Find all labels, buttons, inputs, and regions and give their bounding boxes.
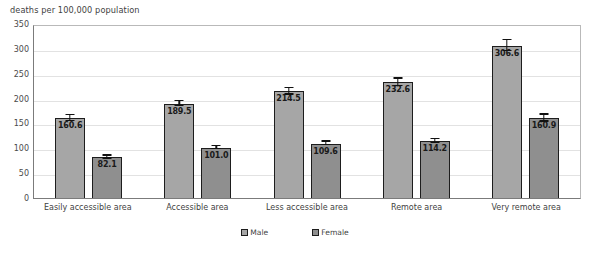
bar-holder: 214.5 [274, 26, 304, 198]
bar-female[interactable]: 109.6 [311, 144, 341, 198]
bar-holder: 306.6 [492, 26, 522, 198]
bar-female[interactable]: 160.9 [529, 118, 559, 198]
error-bar-cap-top [175, 100, 184, 101]
error-bar-cap-top [430, 138, 439, 139]
bar-male[interactable]: 160.6 [55, 118, 85, 198]
bar-value-label: 101.0 [204, 151, 228, 160]
error-bar-cap-top [284, 87, 293, 88]
error-bar-cap-top [212, 145, 221, 146]
error-bar-cap-bottom [212, 148, 221, 149]
bar-group: 232.6114.2 [362, 26, 471, 198]
x-axis-label: Very remote area [471, 203, 581, 212]
legend-swatch-icon [312, 229, 319, 236]
bar-groups: 160.682.1189.5101.0214.5109.6232.6114.23… [34, 26, 580, 198]
error-bar-cap-bottom [321, 144, 330, 145]
y-axis-tick-label: 200 [3, 96, 29, 104]
y-axis-title: deaths per 100,000 population [10, 5, 140, 15]
error-bar-cap-bottom [175, 105, 184, 106]
bar-value-label: 232.6 [386, 85, 410, 94]
legend-label: Female [321, 228, 348, 237]
y-axis-tick-label: 100 [3, 145, 29, 153]
bar-female[interactable]: 82.1 [92, 157, 122, 198]
bar-male[interactable]: 189.5 [164, 104, 194, 198]
bar-female[interactable]: 114.2 [420, 141, 450, 198]
bar-group: 189.5101.0 [143, 26, 252, 198]
error-bar-cap-bottom [539, 120, 548, 121]
legend-item-female[interactable]: Female [312, 228, 348, 237]
error-bar-cap-top [502, 39, 511, 40]
x-axis-label: Remote area [362, 203, 472, 212]
error-bar-cap-bottom [103, 157, 112, 158]
bar-holder: 232.6 [383, 26, 413, 198]
legend-item-male[interactable]: Male [241, 228, 268, 237]
bar-group: 160.682.1 [34, 26, 143, 198]
bar-value-label: 160.6 [58, 121, 82, 130]
x-axis-labels: Easily accessible areaAccessible areaLes… [33, 203, 581, 212]
bar-holder: 160.9 [529, 26, 559, 198]
error-bar-cap-bottom [284, 93, 293, 94]
bar-female[interactable]: 101.0 [201, 148, 231, 198]
y-axis-tick-label: 350 [3, 21, 29, 29]
x-axis-label: Easily accessible area [33, 203, 143, 212]
y-axis-tick-label: 300 [3, 46, 29, 54]
plot-area: 160.682.1189.5101.0214.5109.6232.6114.23… [33, 25, 581, 199]
error-bar-cap-bottom [66, 120, 75, 121]
legend-swatch-icon [241, 229, 248, 236]
chart-container: deaths per 100,000 population 160.682.11… [0, 0, 590, 259]
x-axis-label: Accessible area [143, 203, 253, 212]
error-bar-cap-top [103, 154, 112, 155]
error-bar-cap-bottom [430, 142, 439, 143]
bar-holder: 160.6 [55, 26, 85, 198]
error-bar-cap-top [321, 140, 330, 141]
y-axis-tick-label: 250 [3, 71, 29, 79]
legend-label: Male [250, 228, 268, 237]
bar-male[interactable]: 214.5 [274, 91, 304, 198]
bar-group: 306.6160.9 [471, 26, 580, 198]
error-bar-cap-top [539, 113, 548, 114]
bar-value-label: 82.1 [98, 160, 117, 169]
bar-holder: 189.5 [164, 26, 194, 198]
bar-male[interactable]: 306.6 [492, 46, 522, 198]
bar-value-label: 189.5 [167, 107, 191, 116]
bar-value-label: 114.2 [423, 144, 447, 153]
y-axis-tick-label: 150 [3, 120, 29, 128]
chart-legend: MaleFemale [0, 228, 590, 237]
bar-value-label: 160.9 [532, 121, 556, 130]
bar-value-label: 214.5 [276, 94, 300, 103]
bar-holder: 114.2 [420, 26, 450, 198]
error-bar-cap-bottom [502, 50, 511, 51]
bar-group: 214.5109.6 [252, 26, 361, 198]
plot-wrapper: 160.682.1189.5101.0214.5109.6232.6114.23… [33, 25, 581, 199]
y-axis-tick-label: 50 [3, 170, 29, 178]
bar-holder: 101.0 [201, 26, 231, 198]
bar-holder: 82.1 [92, 26, 122, 198]
error-bar-cap-bottom [393, 85, 402, 86]
error-bar-cap-top [66, 114, 75, 115]
x-axis-label: Less accessible area [252, 203, 362, 212]
bar-holder: 109.6 [311, 26, 341, 198]
y-axis-tick-label: 0 [3, 195, 29, 203]
bar-male[interactable]: 232.6 [383, 82, 413, 198]
bar-value-label: 109.6 [313, 147, 337, 156]
error-bar-cap-top [393, 77, 402, 78]
